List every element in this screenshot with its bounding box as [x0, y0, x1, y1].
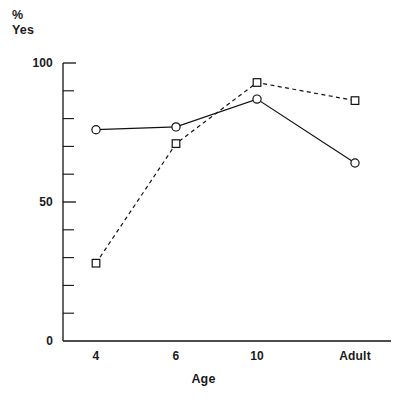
circle-series-line	[96, 99, 355, 163]
square-marker-age-4	[92, 259, 100, 267]
x-tick-label-adult: Adult	[339, 349, 371, 363]
series-square-dashed	[92, 79, 359, 267]
square-marker-age-10	[253, 79, 261, 87]
y-tick-label-100: 100	[9, 56, 53, 70]
series-circle-solid	[92, 95, 359, 167]
chart-figure: % Yes	[0, 0, 407, 410]
circle-marker-age-6	[172, 123, 180, 131]
y-tick-label-50: 50	[9, 195, 53, 209]
square-marker-age-6	[172, 140, 180, 148]
circle-marker-age-10	[253, 95, 261, 103]
square-marker-age-adult	[351, 97, 359, 105]
x-tick-label-10: 10	[250, 349, 264, 363]
circle-marker-age-4	[92, 126, 100, 134]
x-axis-title: Age	[0, 372, 407, 386]
circle-marker-age-adult	[351, 159, 359, 167]
x-tick-label-4: 4	[93, 349, 100, 363]
x-tick-label-6: 6	[173, 349, 180, 363]
y-axis-ticks	[63, 63, 76, 313]
y-tick-label-0: 0	[9, 334, 53, 348]
